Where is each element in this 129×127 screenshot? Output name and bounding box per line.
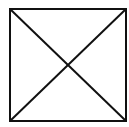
diagram-canvas [0,0,129,127]
square-with-x-diagram [0,0,129,127]
